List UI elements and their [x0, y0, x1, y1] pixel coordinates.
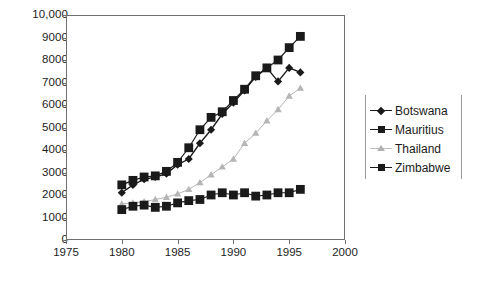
x-axis-tick-label: 1985 [165, 246, 191, 258]
square-marker-icon [370, 124, 392, 136]
diamond-marker-icon [370, 105, 392, 117]
triangle-marker-icon [370, 143, 392, 155]
legend-item[interactable]: Botswana [370, 101, 461, 120]
legend-label-mauritius: Mauritius [392, 124, 444, 136]
plot-area [66, 15, 345, 240]
x-axis-tick-label: 1995 [276, 246, 302, 258]
chart-figure: 010002000300040005000600070008000900010,… [0, 0, 479, 285]
legend-label-botswana: Botswana [392, 105, 448, 117]
legend-item[interactable]: Mauritius [370, 120, 461, 139]
x-axis-tick-mark [66, 240, 67, 244]
x-axis-tick-label: 1975 [53, 246, 79, 258]
legend-item[interactable]: Zimbabwe [370, 158, 461, 177]
chart-legend: Botswana Mauritius Thailand Zimbabwe [365, 95, 462, 179]
legend-label-zimbabwe: Zimbabwe [392, 162, 450, 174]
legend-label-thailand: Thailand [392, 143, 441, 155]
x-axis-tick-label: 2000 [332, 246, 358, 258]
x-axis-tick-mark [345, 240, 346, 244]
x-axis-tick-mark [122, 240, 123, 244]
square-marker-icon [370, 162, 392, 174]
x-axis-tick-label: 1990 [221, 246, 247, 258]
x-axis-tick-label: 1980 [109, 246, 135, 258]
x-axis-tick-mark [233, 240, 234, 244]
legend-item[interactable]: Thailand [370, 139, 461, 158]
x-axis-tick-mark [178, 240, 179, 244]
x-axis-tick-mark [289, 240, 290, 244]
